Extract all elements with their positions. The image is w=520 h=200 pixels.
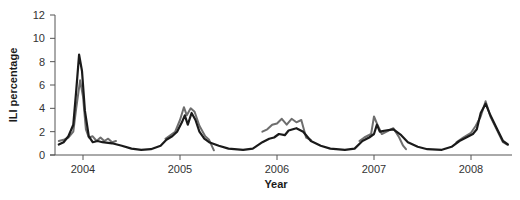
x-ticks: 20042005200620072008 — [71, 155, 483, 175]
y-axis-title: ILI percentage — [7, 48, 19, 123]
ili-line-chart: 024681012 20042005200620072008 ILI perce… — [0, 0, 520, 200]
y-tick-label: 10 — [33, 32, 45, 44]
x-tick-label: 2006 — [265, 163, 289, 175]
y-axis: 024681012 — [33, 9, 55, 161]
y-tick-label: 0 — [39, 149, 45, 161]
x-tick-label: 2007 — [362, 163, 386, 175]
x-tick-label: 2004 — [71, 163, 95, 175]
y-tick-label: 2 — [39, 126, 45, 138]
x-tick-label: 2008 — [459, 163, 483, 175]
series-layer — [59, 55, 508, 151]
y-tick-label: 6 — [39, 79, 45, 91]
series-line-estimated — [262, 119, 311, 140]
x-tick-label: 2005 — [168, 163, 192, 175]
x-axis-title: Year — [264, 178, 288, 190]
x-axis: 20042005200620072008 — [50, 155, 512, 175]
y-tick-label: 12 — [33, 9, 45, 21]
y-ticks: 024681012 — [33, 9, 55, 161]
series-line-reported — [59, 55, 508, 150]
series-line-estimated — [165, 107, 214, 150]
y-tick-label: 8 — [39, 56, 45, 68]
y-tick-label: 4 — [39, 102, 45, 114]
